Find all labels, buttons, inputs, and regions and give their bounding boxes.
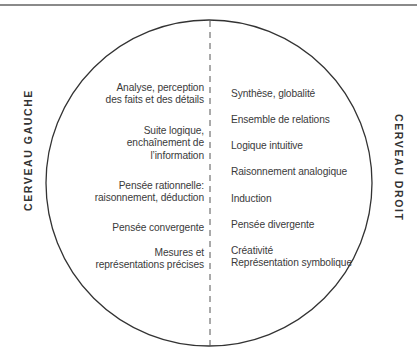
left-item-suite-logique: Suite logique, enchaînement de l’informa… — [127, 125, 204, 162]
left-item-analyse: Analyse, perception des faits et des dét… — [106, 82, 204, 107]
item-line: raisonnement, déduction — [95, 192, 204, 204]
item-line: Logique intuitive — [231, 140, 303, 152]
item-line: Suite logique, — [127, 125, 204, 137]
item-line: Analyse, perception — [106, 82, 204, 94]
item-line: l’information — [127, 150, 204, 162]
item-line: Synthèse, globalité — [231, 88, 315, 100]
right-item-ensemble-relations: Ensemble de relations — [231, 114, 330, 126]
right-item-raisonnement-analogique: Raisonnement analogique — [231, 166, 347, 178]
right-item-creativite: Créativité Représentation symbolique — [231, 245, 352, 270]
item-line: Ensemble de relations — [231, 114, 330, 126]
item-line: Représentation symbolique — [231, 257, 352, 269]
right-item-pensee-divergente: Pensée divergente — [231, 219, 314, 231]
item-line: Raisonnement analogique — [231, 166, 347, 178]
item-line: Créativité — [231, 245, 352, 257]
item-line: Pensée rationnelle: — [95, 180, 204, 192]
item-line: Mesures et — [95, 247, 204, 259]
right-item-induction: Induction — [231, 193, 271, 205]
right-hemisphere-label: CERVEAU DROIT — [393, 114, 405, 214]
left-hemisphere-label: CERVEAU GAUCHE — [22, 111, 34, 211]
left-item-pensee-rationnelle: Pensée rationnelle: raisonnement, déduct… — [95, 180, 204, 205]
item-line: des faits et des détails — [106, 94, 204, 106]
left-item-pensee-convergente: Pensée convergente — [112, 222, 204, 234]
brain-circle-diagram — [0, 0, 417, 355]
item-line: représentations précises — [95, 259, 204, 271]
item-line: Pensée convergente — [112, 222, 204, 234]
right-item-synthese: Synthèse, globalité — [231, 88, 315, 100]
item-line: enchaînement de — [127, 137, 204, 149]
item-line: Induction — [231, 193, 271, 205]
right-item-logique-intuitive: Logique intuitive — [231, 140, 303, 152]
left-item-mesures: Mesures et représentations précises — [95, 247, 204, 272]
item-line: Pensée divergente — [231, 219, 314, 231]
